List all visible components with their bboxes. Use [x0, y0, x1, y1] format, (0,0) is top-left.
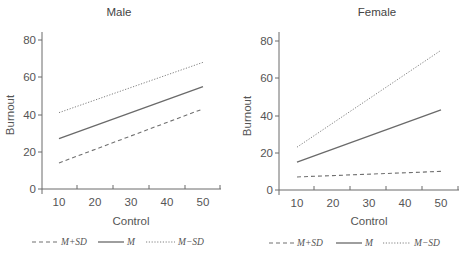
panel-female: Female 0 20 40 60 80 Burnout 10 20 — [241, 6, 459, 248]
series-line-solid — [59, 87, 203, 139]
series-lines-male — [59, 62, 203, 163]
y-tick-label: 20 — [260, 147, 273, 159]
panel-male: Male 0 20 40 60 80 Burnout 10 20 3 — [4, 6, 221, 247]
x-tick-label: 50 — [197, 196, 210, 208]
series-line-dotted — [59, 62, 203, 112]
y-tick-label: 80 — [260, 35, 273, 47]
x-tick-label: 20 — [327, 197, 340, 209]
y-ticks-male: 0 20 40 60 80 — [23, 34, 42, 195]
chart-canvas: Male 0 20 40 60 80 Burnout 10 20 3 — [0, 0, 463, 261]
series-line-dashed — [297, 171, 441, 177]
legend-label-mean: M — [364, 238, 374, 248]
y-tick-label: 80 — [23, 34, 36, 46]
x-axis-label-female: Control — [350, 215, 387, 227]
legend-label-minus-sd: M−SD — [413, 238, 440, 248]
x-tick-label: 50 — [435, 197, 448, 209]
y-tick-label: 40 — [23, 109, 36, 121]
y-tick-label: 0 — [267, 184, 273, 196]
panel-title-female: Female — [358, 6, 396, 18]
legend-label-plus-sd: M+SD — [296, 238, 323, 248]
y-axis-label-female: Burnout — [241, 95, 253, 136]
series-line-solid — [297, 110, 441, 162]
x-tick-label: 20 — [89, 196, 102, 208]
y-tick-label: 0 — [30, 183, 36, 195]
series-line-dashed — [59, 109, 203, 163]
series-lines-female — [297, 50, 441, 177]
y-tick-label: 60 — [260, 72, 273, 84]
legend-label-mean: M — [126, 237, 136, 247]
y-tick-label: 60 — [23, 71, 36, 83]
x-tick-label: 40 — [161, 196, 174, 208]
x-tick-label: 40 — [399, 197, 412, 209]
y-axis-label-male: Burnout — [4, 94, 16, 135]
x-tick-label: 10 — [53, 196, 66, 208]
legend-label-plus-sd: M+SD — [60, 237, 87, 247]
x-ticks-male: 10 20 30 40 50 — [42, 185, 220, 208]
x-tick-label: 10 — [291, 197, 304, 209]
y-tick-label: 20 — [23, 146, 36, 158]
series-line-dotted — [297, 50, 441, 147]
legend-male: M+SD M M−SD — [32, 237, 204, 247]
x-axis-label-male: Control — [112, 215, 149, 227]
x-ticks-female: 10 20 30 40 50 — [279, 186, 458, 209]
legend-female: M+SD M M−SD — [269, 238, 440, 248]
x-tick-label: 30 — [363, 197, 376, 209]
x-tick-label: 30 — [125, 196, 138, 208]
panel-title-male: Male — [107, 6, 132, 18]
y-ticks-female: 0 20 40 60 80 — [260, 35, 279, 196]
y-tick-label: 40 — [260, 110, 273, 122]
legend-label-minus-sd: M−SD — [177, 237, 204, 247]
